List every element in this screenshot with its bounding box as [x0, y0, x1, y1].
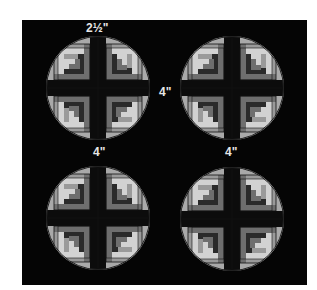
log-strip [117, 54, 127, 59]
log-strip [203, 237, 208, 242]
log-strip [261, 54, 266, 68]
label-top-margin: 2½" [86, 22, 108, 34]
center-cross-arm [90, 218, 98, 270]
log-strip [69, 194, 80, 199]
log-strip [117, 189, 122, 200]
log-strip [116, 107, 127, 112]
log-strip [122, 195, 127, 200]
center-cross-arm [98, 218, 150, 226]
log-strip [203, 195, 214, 200]
log-strip [64, 122, 84, 128]
log-strip [240, 227, 276, 233]
log-strip [208, 106, 213, 117]
log-strip [69, 236, 74, 241]
log-strip [64, 54, 78, 59]
log-strip [122, 65, 127, 70]
log-strip [84, 96, 90, 132]
log-center [69, 241, 74, 247]
log-strip [188, 205, 224, 211]
log-strip [64, 59, 69, 69]
center-cross-arm [180, 211, 232, 219]
log-strip [203, 64, 214, 69]
log-strip [261, 107, 266, 117]
log-center [203, 111, 208, 117]
log-center [256, 59, 261, 65]
log-strip [198, 239, 203, 253]
log-strip [209, 190, 214, 195]
log-strip [198, 108, 203, 122]
log-strip [208, 237, 213, 248]
log-center [69, 189, 75, 194]
log-strip [54, 74, 90, 80]
log-strip [198, 185, 212, 190]
log-strip [198, 59, 203, 69]
log-strip [64, 189, 69, 199]
log-strip [116, 112, 121, 117]
center-cross-arm [90, 88, 98, 140]
log-center [122, 59, 127, 65]
log-strip [192, 54, 198, 74]
center-cross-arm [98, 166, 106, 218]
log-center [69, 111, 74, 117]
log-center [255, 243, 261, 248]
center-cross-arm [98, 36, 106, 88]
log-strip [127, 107, 132, 117]
log-strip [58, 184, 64, 204]
center-cross-arm [224, 88, 232, 140]
log-center [255, 112, 261, 117]
log-strip [106, 44, 112, 80]
log-strip [250, 238, 261, 243]
center-cross-arm [46, 210, 98, 218]
log-strip [74, 236, 79, 247]
log-strip [266, 233, 272, 253]
log-strip [261, 238, 266, 248]
log-strip [69, 106, 74, 111]
log-strip [261, 185, 266, 199]
log-strip [69, 64, 80, 69]
log-strip [240, 96, 276, 102]
log-strip [246, 179, 266, 185]
log-center [256, 190, 261, 196]
center-cross-arm [232, 219, 284, 227]
log-strip [256, 65, 261, 70]
log-strip [251, 190, 256, 201]
log-center [122, 189, 127, 195]
log-strip [252, 248, 266, 253]
center-cross-arm [232, 36, 240, 88]
log-strip [250, 112, 255, 117]
log-strip [192, 185, 198, 205]
log-strip [252, 117, 266, 122]
log-center [203, 59, 209, 64]
log-strip [198, 54, 212, 59]
log-strip [132, 232, 138, 252]
log-strip [127, 237, 132, 247]
log-strip [209, 59, 214, 64]
center-cross-arm [46, 80, 98, 88]
log-strip [64, 184, 78, 189]
log-strip [117, 59, 122, 70]
log-strip [250, 243, 255, 248]
log-strip [218, 96, 224, 132]
log-strip [106, 96, 142, 102]
center-cross-arm [98, 88, 150, 96]
log-strip [256, 196, 261, 201]
log-center [121, 242, 127, 247]
log-strip [112, 178, 132, 184]
log-strip [203, 117, 213, 122]
log-center [203, 242, 208, 248]
log-strip [251, 185, 261, 190]
log-strip [64, 108, 69, 122]
log-strip [69, 247, 79, 252]
log-strip [251, 54, 261, 59]
log-center [69, 59, 75, 64]
quilt-blocks-diagram [0, 0, 317, 290]
log-strip [74, 106, 79, 117]
log-strip [69, 117, 79, 122]
log-strip [127, 184, 132, 198]
log-strip [240, 175, 246, 211]
label-bottom-right-gap: 4" [225, 146, 237, 158]
log-strip [198, 122, 218, 128]
log-strip [112, 48, 132, 54]
label-bottom-left-gap: 4" [93, 146, 105, 158]
log-strip [117, 184, 127, 189]
